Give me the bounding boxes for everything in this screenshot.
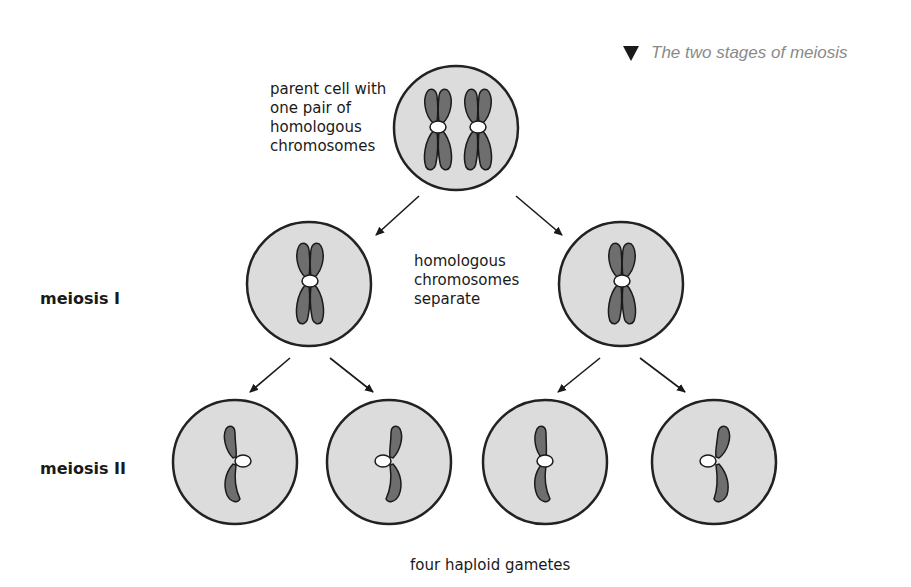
gamete-cell-2 — [327, 400, 451, 524]
separation-label: homologous chromosomes separate — [414, 252, 519, 309]
parent-cell-label: parent cell with one pair of homologous … — [270, 80, 386, 156]
gametes-label: four haploid gametes — [410, 556, 570, 575]
meiosis1-cell-right — [559, 222, 683, 346]
gamete-cell-4 — [652, 400, 776, 524]
gamete-cell-1 — [173, 400, 297, 524]
parent-cell — [394, 66, 518, 190]
stage-label-meiosis-1: meiosis I — [40, 289, 120, 308]
gamete-cell-3 — [483, 400, 607, 524]
meiosis1-cell-left — [247, 222, 371, 346]
stage-label-meiosis-2: meiosis II — [40, 459, 126, 478]
